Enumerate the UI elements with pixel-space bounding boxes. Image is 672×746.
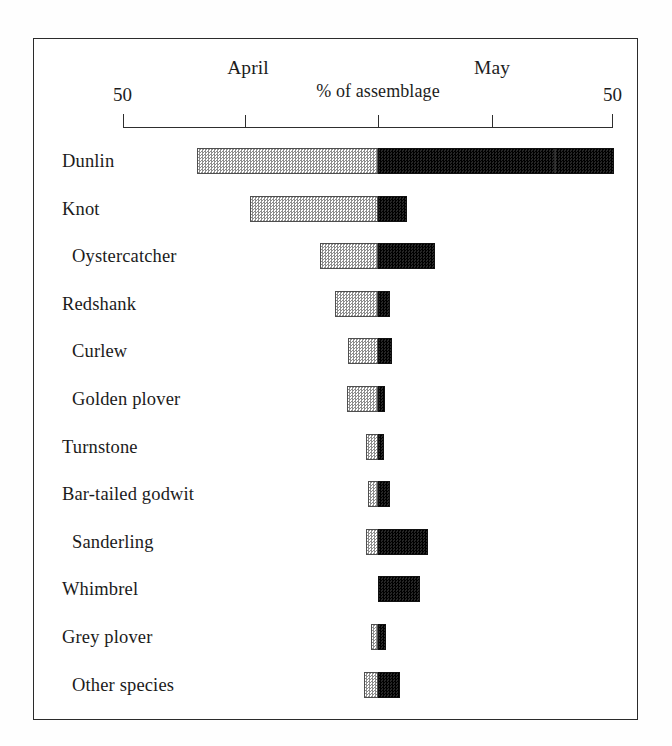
- bar-row-label: Turnstone: [62, 432, 252, 462]
- bar-segment-may: [378, 576, 420, 602]
- bar-segment-may: [378, 338, 392, 364]
- bar-row: Redshank: [0, 289, 672, 319]
- bar-segment-april: [197, 148, 378, 174]
- bar-segment-april: [347, 386, 378, 412]
- bar-segment-may: [378, 196, 407, 222]
- bar-segment-may: [378, 291, 390, 317]
- bar-segment-april: [320, 243, 378, 269]
- bar-row: Other species: [0, 670, 672, 700]
- bar-row-label: Whimbrel: [62, 574, 252, 604]
- bar-row-label: Knot: [62, 194, 252, 224]
- bar-segment-may: [378, 434, 384, 460]
- bar-segment-may: [378, 148, 614, 174]
- bar-rows: DunlinKnotOystercatcherRedshankCurlewGol…: [0, 0, 672, 746]
- bar-segment-may: [378, 386, 385, 412]
- bar-row: Bar-tailed godwit: [0, 479, 672, 509]
- bar-segment-may: [378, 624, 386, 650]
- bar-segment-april: [371, 624, 378, 650]
- bar-segment-april: [366, 529, 378, 555]
- bar-row-label: Oystercatcher: [72, 241, 262, 271]
- bar-row: Grey plover: [0, 622, 672, 652]
- bar-row-label: Curlew: [72, 336, 262, 366]
- figure-page: April % of assemblage May 50 50 DunlinKn…: [0, 0, 672, 746]
- bar-row: Sanderling: [0, 527, 672, 557]
- diverging-bar: [378, 576, 420, 602]
- bar-row: Oystercatcher: [0, 241, 672, 271]
- diverging-bar: [348, 338, 392, 364]
- bar-row: Curlew: [0, 336, 672, 366]
- bar-segment-may: [378, 529, 428, 555]
- bar-segment-may: [378, 672, 400, 698]
- diverging-bar: [368, 481, 390, 507]
- bar-row-label: Redshank: [62, 289, 252, 319]
- bar-row: Golden plover: [0, 384, 672, 414]
- bar-segment-april: [250, 196, 378, 222]
- diverging-bar: [366, 529, 428, 555]
- bar-segment-april: [364, 672, 378, 698]
- bar-row: Dunlin: [0, 146, 672, 176]
- diverging-bar: [335, 291, 390, 317]
- bar-row: Whimbrel: [0, 574, 672, 604]
- bar-segment-april: [335, 291, 378, 317]
- bar-segment-seam: [554, 149, 556, 173]
- diverging-bar: [366, 434, 384, 460]
- diverging-bar: [347, 386, 385, 412]
- diverging-bar: [250, 196, 407, 222]
- bar-row: Turnstone: [0, 432, 672, 462]
- bar-row-label: Sanderling: [72, 527, 262, 557]
- bar-segment-may: [378, 481, 390, 507]
- bar-row-label: Other species: [72, 670, 262, 700]
- bar-row-label: Golden plover: [72, 384, 262, 414]
- bar-row-label: Grey plover: [62, 622, 252, 652]
- diverging-bar: [197, 148, 614, 174]
- bar-segment-april: [366, 434, 378, 460]
- diverging-bar: [364, 672, 400, 698]
- bar-segment-april: [348, 338, 378, 364]
- bar-row: Knot: [0, 194, 672, 224]
- bar-segment-may: [378, 243, 435, 269]
- bar-segment-april: [368, 481, 378, 507]
- diverging-bar: [371, 624, 386, 650]
- bar-row-label: Bar-tailed godwit: [62, 479, 252, 509]
- diverging-bar: [320, 243, 436, 269]
